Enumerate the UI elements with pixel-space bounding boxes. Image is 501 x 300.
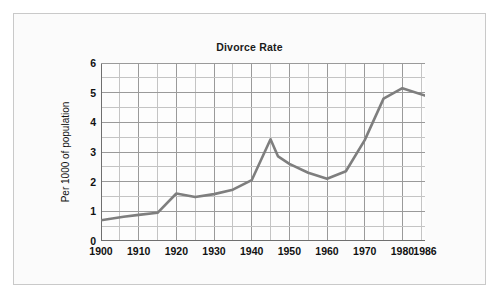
y-tick-1: 1	[90, 206, 96, 217]
x-tick-1900: 1900	[89, 246, 112, 257]
y-axis-label: Per 1000 of population	[60, 102, 71, 203]
x-tick-1960: 1960	[315, 246, 338, 257]
x-tick-1920: 1920	[165, 246, 188, 257]
y-tick-6: 6	[90, 58, 96, 69]
x-tick-1940: 1940	[240, 246, 263, 257]
plot-wrapper: Per 1000 of population 0123456 190019101…	[101, 63, 425, 241]
y-tick-3: 3	[90, 147, 96, 158]
x-tick-1986: 1986	[413, 246, 436, 257]
x-tick-1910: 1910	[127, 246, 150, 257]
x-tick-1950: 1950	[278, 246, 301, 257]
x-tick-1970: 1970	[353, 246, 376, 257]
plot-area	[101, 63, 425, 241]
x-tick-1980: 1980	[391, 246, 414, 257]
y-tick-4: 4	[90, 117, 96, 128]
y-tick-2: 2	[90, 176, 96, 187]
x-tick-1930: 1930	[202, 246, 225, 257]
y-tick-5: 5	[90, 87, 96, 98]
chart-title: Divorce Rate	[14, 41, 485, 53]
chart-figure: Divorce Rate Per 1000 of population 0123…	[13, 13, 486, 285]
data-line-divorce-rate	[101, 63, 425, 241]
